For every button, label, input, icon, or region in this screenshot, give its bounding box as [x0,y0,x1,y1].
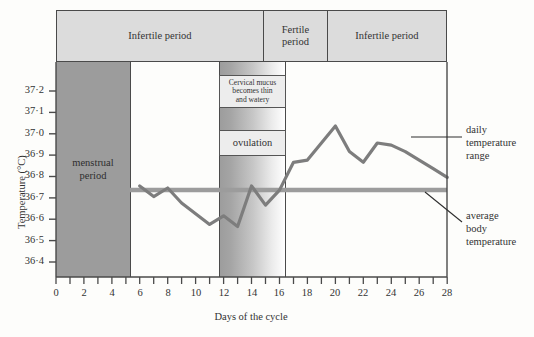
x-tick-label: 4 [102,287,122,298]
y-tick-label: 36·4 [8,255,44,266]
x-tick-label: 6 [130,287,150,298]
y-tick-label: 37·1 [8,105,44,116]
x-ticks [56,277,447,284]
x-axis-title: Days of the cycle [176,311,326,322]
daily-temperature-line [140,126,448,227]
y-axis-title: Temperature (°C) [16,155,27,229]
x-tick-label: 10 [186,287,206,298]
leader-average-body-temperature [425,192,462,222]
x-tick-label: 20 [325,287,345,298]
x-tick-label: 22 [353,287,373,298]
x-tick-label: 26 [409,287,429,298]
x-tick-label: 8 [158,287,178,298]
x-tick-label: 16 [269,287,289,298]
x-tick-label: 0 [46,287,66,298]
x-tick-label: 12 [214,287,234,298]
annotation-daily-temperature-range: daily temperature range [466,124,532,162]
x-tick-label: 24 [381,287,401,298]
chart-figure: Infertile period Fertile period Infertil… [0,0,534,337]
y-ticks [49,91,56,262]
x-tick-label: 14 [242,287,262,298]
y-tick-label: 36·5 [8,234,44,245]
x-tick-label: 28 [437,287,457,298]
x-tick-label: 18 [297,287,317,298]
annotation-average-body-temperature: average body temperature [466,210,532,248]
x-tick-label: 2 [74,287,94,298]
y-tick-label: 37·0 [8,127,44,138]
y-tick-label: 37·2 [8,84,44,95]
